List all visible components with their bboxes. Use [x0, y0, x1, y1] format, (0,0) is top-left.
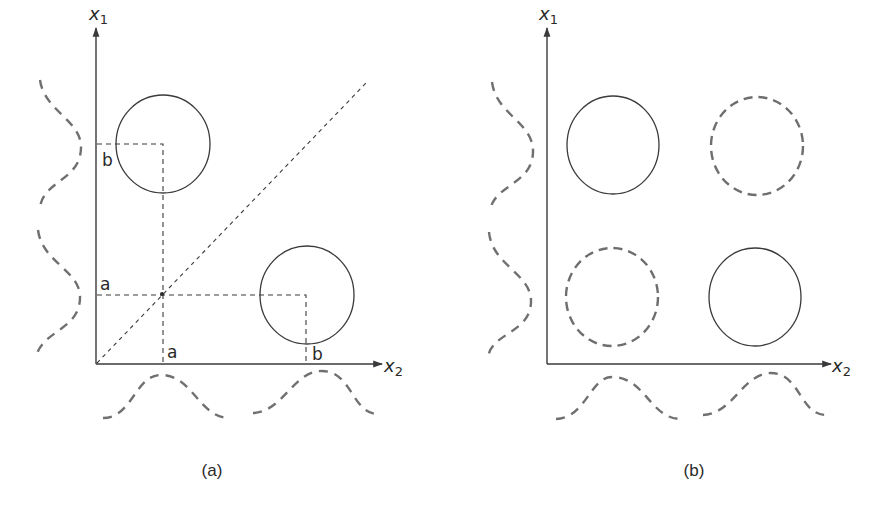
- figure: x1 x2 b a a b (a) x: [0, 0, 880, 517]
- panel-a-tick-x2-b: b: [312, 344, 323, 364]
- panel-b-x1-density-upper: [490, 82, 533, 210]
- panel-a-x1-density-lower: [36, 230, 80, 357]
- panel-a-intersection-point: [160, 292, 164, 296]
- panel-a-x2-density-right: [253, 371, 378, 414]
- panel-a-guide-b-a: [97, 144, 163, 364]
- panel-a-tick-x2-a: a: [167, 342, 177, 362]
- panel-a-y-axis-label: x1: [88, 3, 108, 27]
- panel-a-diagonal: [97, 83, 366, 363]
- panel-a-guide-a-b: [97, 295, 306, 364]
- panel-a-tick-x1-a: a: [100, 274, 110, 294]
- panel-b-cluster-bottom-right: [709, 248, 801, 346]
- panel-a-cluster-bottom-right: [260, 246, 354, 344]
- panel-b-cluster-top-left: [567, 96, 659, 194]
- panel-a-tick-x1-b: b: [102, 150, 113, 170]
- panel-a-x2-density-left: [103, 375, 228, 418]
- panel-b-y-axis-label: x1: [538, 3, 558, 27]
- panel-b-cluster-bottom-left: [566, 248, 658, 346]
- panel-a-x1-density-upper: [40, 80, 81, 207]
- panel-b: x1 x2 (b): [488, 3, 851, 480]
- panel-b-x-axis-label: x2: [831, 355, 851, 379]
- panel-b-caption: (b): [684, 461, 705, 480]
- panel-b-x1-density-lower: [488, 232, 531, 357]
- panel-b-x2-density-left: [556, 377, 680, 419]
- panel-b-cluster-top-right: [711, 97, 803, 195]
- panel-a-caption: (a): [202, 461, 223, 480]
- panel-b-x2-density-right: [703, 373, 826, 415]
- panel-a: x1 x2 b a a b (a): [36, 3, 403, 480]
- panel-a-x-axis-label: x2: [383, 355, 403, 379]
